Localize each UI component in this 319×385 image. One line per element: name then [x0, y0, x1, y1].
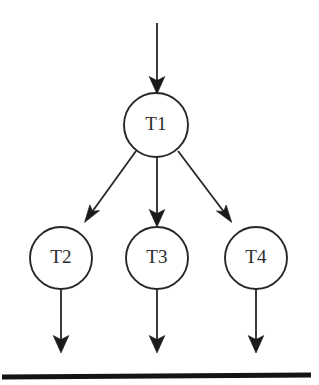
edge-T1-to-T2: [85, 151, 137, 223]
edge-T3-to-baseline: [149, 289, 165, 353]
edge-T1-to-T4-shaft: [178, 151, 224, 212]
node-T2[interactable]: T2: [30, 227, 92, 289]
edge-T1-to-T4-arrowhead: [216, 205, 231, 223]
edge-entry-to-T1: [149, 23, 165, 94]
node-T2-label: T2: [50, 246, 72, 267]
node-T4-label: T4: [245, 246, 267, 267]
diagram-canvas: T1 T2 T3 T4: [0, 0, 319, 385]
baseline-bar: [2, 373, 311, 380]
edge-T1-to-T4: [178, 151, 232, 223]
node-T3-label: T3: [146, 246, 168, 267]
edge-T1-to-T3: [149, 157, 165, 227]
node-T1[interactable]: T1: [124, 93, 188, 157]
node-T3[interactable]: T3: [126, 227, 188, 289]
edge-T1-to-T2-shaft: [92, 151, 136, 212]
edge-T2-to-baseline: [53, 289, 69, 353]
node-T4[interactable]: T4: [225, 227, 287, 289]
edge-T4-to-baseline: [248, 289, 264, 353]
node-T1-label: T1: [145, 113, 167, 134]
edge-T1-to-T2-arrowhead: [85, 205, 100, 223]
task-tree-diagram: T1 T2 T3 T4: [0, 0, 319, 385]
